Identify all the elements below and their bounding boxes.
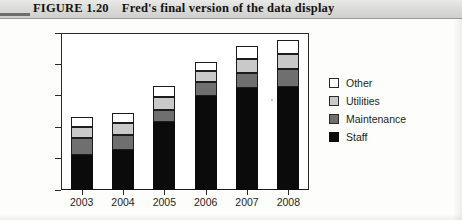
chart-legend: OtherUtilitiesMaintenanceStaff	[329, 74, 406, 146]
bar-segment-staff[interactable]	[277, 87, 299, 190]
bar-segment-staff[interactable]	[236, 88, 258, 190]
bar-segment-staff[interactable]	[71, 155, 93, 190]
bar-column-2004[interactable]	[112, 113, 134, 190]
bar-segment-maintenance[interactable]	[71, 138, 93, 155]
legend-label: Other	[346, 77, 372, 89]
x-axis-tick-label: 2003	[62, 196, 102, 208]
x-axis-tick-mark	[164, 190, 165, 195]
title-rule	[0, 13, 30, 16]
x-axis-tick-mark	[82, 190, 83, 195]
bar-segment-other[interactable]	[71, 117, 93, 127]
bar-column-2006[interactable]	[195, 62, 217, 190]
bar-column-2003[interactable]	[71, 117, 93, 190]
legend-item-maintenance[interactable]: Maintenance	[329, 110, 406, 128]
figure-container: FIGURE 1.20Fred's final version of the d…	[0, 0, 462, 220]
bar-segment-utilities[interactable]	[71, 127, 93, 138]
bar-segment-maintenance[interactable]	[153, 110, 175, 122]
bar-segment-other[interactable]	[153, 86, 175, 97]
figure-number: FIGURE 1.20	[33, 1, 109, 15]
bar-segment-maintenance[interactable]	[236, 73, 258, 89]
legend-swatch-staff-icon	[329, 132, 339, 142]
legend-swatch-utilities-icon	[329, 96, 339, 106]
bar-segment-other[interactable]	[112, 113, 134, 123]
bar-segment-other[interactable]	[236, 46, 258, 59]
bar-segment-other[interactable]	[277, 40, 299, 54]
x-axis-tick-label: 2006	[186, 196, 226, 208]
legend-swatch-maintenance-icon	[329, 114, 339, 124]
figure-caption: Fred's final version of the data display	[122, 1, 335, 15]
legend-item-staff[interactable]: Staff	[329, 128, 406, 146]
bar-segment-utilities[interactable]	[195, 71, 217, 82]
bar-segment-utilities[interactable]	[236, 59, 258, 73]
legend-item-other[interactable]: Other	[329, 74, 406, 92]
bar-segment-maintenance[interactable]	[277, 69, 299, 87]
bar-column-2005[interactable]	[153, 86, 175, 190]
bar-segment-staff[interactable]	[195, 96, 217, 190]
page-bottom-shadow	[0, 214, 462, 220]
x-axis-tick-label: 2007	[227, 196, 267, 208]
bar-segment-maintenance[interactable]	[112, 135, 134, 150]
legend-swatch-other-icon	[329, 78, 339, 88]
bar-segment-staff[interactable]	[112, 150, 134, 190]
bar-segment-other[interactable]	[195, 62, 217, 71]
legend-label: Maintenance	[346, 113, 406, 125]
bar-segment-utilities[interactable]	[153, 97, 175, 110]
bar-segment-maintenance[interactable]	[195, 82, 217, 96]
x-axis-tick-label: 2008	[268, 196, 308, 208]
figure-title-bar: FIGURE 1.20Fred's final version of the d…	[0, 0, 462, 19]
figure-title: FIGURE 1.20Fred's final version of the d…	[33, 1, 334, 16]
scan-speck	[271, 99, 273, 101]
x-axis-tick-mark	[288, 190, 289, 195]
bar-column-2008[interactable]	[277, 40, 299, 190]
x-axis-tick-label: 2004	[103, 196, 143, 208]
bar-column-2007[interactable]	[236, 46, 258, 190]
legend-item-utilities[interactable]: Utilities	[329, 92, 406, 110]
x-axis-tick-mark	[247, 190, 248, 195]
bar-segment-utilities[interactable]	[112, 123, 134, 135]
bar-segment-utilities[interactable]	[277, 54, 299, 70]
legend-label: Staff	[346, 131, 367, 143]
x-axis-tick-label: 2005	[144, 196, 184, 208]
x-axis-tick-mark	[206, 190, 207, 195]
page-edge-shadow	[453, 18, 462, 220]
plot-area	[61, 33, 309, 190]
bar-segment-staff[interactable]	[153, 122, 175, 190]
legend-label: Utilities	[346, 95, 380, 107]
x-axis-tick-mark	[123, 190, 124, 195]
